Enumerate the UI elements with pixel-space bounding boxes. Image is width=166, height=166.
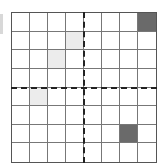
board-cell[interactable] xyxy=(120,69,138,88)
game-board xyxy=(11,12,157,163)
board-cell[interactable] xyxy=(120,32,138,51)
board-cell[interactable] xyxy=(84,50,102,69)
board-cell[interactable] xyxy=(66,50,84,69)
board-cell[interactable] xyxy=(138,106,156,125)
board-cell[interactable] xyxy=(30,106,48,125)
board-cell[interactable] xyxy=(12,106,30,125)
board-cell[interactable] xyxy=(12,143,30,162)
board-cell[interactable] xyxy=(12,69,30,88)
board-cell[interactable] xyxy=(30,32,48,51)
board-cell[interactable] xyxy=(66,32,84,51)
board-cell[interactable] xyxy=(66,13,84,32)
board-cell[interactable] xyxy=(120,106,138,125)
board-cell[interactable] xyxy=(66,106,84,125)
board-cell[interactable] xyxy=(66,69,84,88)
board-cell[interactable] xyxy=(30,143,48,162)
board-cell[interactable] xyxy=(102,106,120,125)
horizontal-axis-line xyxy=(11,87,157,89)
board-cell[interactable] xyxy=(120,143,138,162)
board-cell[interactable] xyxy=(48,125,66,144)
board-cell[interactable] xyxy=(102,69,120,88)
board-cell[interactable] xyxy=(138,88,156,107)
board-cell[interactable] xyxy=(48,50,66,69)
board-cell[interactable] xyxy=(138,32,156,51)
board-cell[interactable] xyxy=(120,125,138,144)
board-cell[interactable] xyxy=(84,13,102,32)
board-cell[interactable] xyxy=(138,143,156,162)
board-cell[interactable] xyxy=(120,50,138,69)
board-cell[interactable] xyxy=(66,88,84,107)
board-cell[interactable] xyxy=(48,106,66,125)
board-cell[interactable] xyxy=(84,69,102,88)
board-cell[interactable] xyxy=(102,50,120,69)
board-cell[interactable] xyxy=(12,88,30,107)
board-cell[interactable] xyxy=(48,32,66,51)
board-cell[interactable] xyxy=(138,50,156,69)
edge-marker xyxy=(0,14,3,34)
board-cell[interactable] xyxy=(48,143,66,162)
board-cell[interactable] xyxy=(138,69,156,88)
board-cell[interactable] xyxy=(30,13,48,32)
board-cell[interactable] xyxy=(102,32,120,51)
board-cell[interactable] xyxy=(48,88,66,107)
board-cell[interactable] xyxy=(120,88,138,107)
board-cell[interactable] xyxy=(138,13,156,32)
board-cell[interactable] xyxy=(48,13,66,32)
board-cell[interactable] xyxy=(66,143,84,162)
board-cell[interactable] xyxy=(120,13,138,32)
board-cell[interactable] xyxy=(48,69,66,88)
board-cell[interactable] xyxy=(102,143,120,162)
board-cell[interactable] xyxy=(84,32,102,51)
board-cell[interactable] xyxy=(30,69,48,88)
board-cell[interactable] xyxy=(102,88,120,107)
board-cell[interactable] xyxy=(84,143,102,162)
board-cell[interactable] xyxy=(84,88,102,107)
board-cell[interactable] xyxy=(138,125,156,144)
board-cell[interactable] xyxy=(66,125,84,144)
board-cell[interactable] xyxy=(84,106,102,125)
board-cell[interactable] xyxy=(102,125,120,144)
board-cell[interactable] xyxy=(12,13,30,32)
board-cell[interactable] xyxy=(30,125,48,144)
board-cell[interactable] xyxy=(12,50,30,69)
board-cell[interactable] xyxy=(102,13,120,32)
board-cell[interactable] xyxy=(30,88,48,107)
board-cell[interactable] xyxy=(12,125,30,144)
board-cell[interactable] xyxy=(12,32,30,51)
board-cell[interactable] xyxy=(84,125,102,144)
board-cell[interactable] xyxy=(30,50,48,69)
